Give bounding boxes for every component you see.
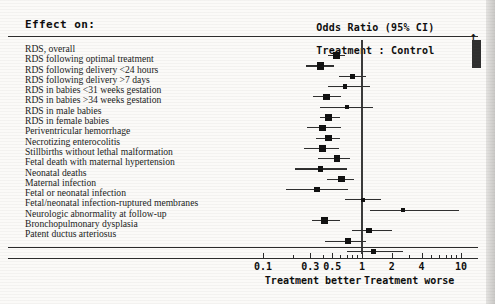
forest-plot-figure: Effect on: Odds Ratio (95% CI) Treatment… (0, 0, 495, 304)
paper-grain-overlay (0, 0, 495, 304)
